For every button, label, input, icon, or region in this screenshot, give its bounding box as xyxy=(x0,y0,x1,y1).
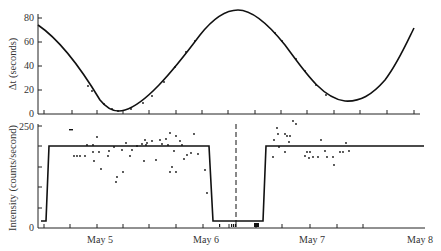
bottom-panel: 250 0 May 5 May 6 May 7 May 8 Intensity … xyxy=(7,120,433,245)
x-tick-label-may8: May 8 xyxy=(407,234,433,245)
x-tick-label-may6: May 6 xyxy=(193,234,219,245)
eclipse-model-line xyxy=(41,146,424,221)
top-y-tick-label: 80 xyxy=(24,12,34,23)
top-y-tick-label: 0 xyxy=(29,108,34,119)
top-y-tick-label: 40 xyxy=(24,60,34,71)
delay-data-points xyxy=(87,32,327,112)
bottom-y-axis-title: Intensity (counts/second) xyxy=(7,125,19,231)
top-y-ticks xyxy=(38,18,42,90)
bottom-y-tick-label: 250 xyxy=(19,121,34,132)
top-y-axis-title: Δt (seconds) xyxy=(7,37,19,90)
bottom-y-tick-label: 0 xyxy=(29,222,34,233)
x-tick-label-may5: May 5 xyxy=(87,234,113,245)
top-x-ticks xyxy=(44,110,414,114)
intensity-data-points xyxy=(69,120,350,227)
delay-curve xyxy=(38,10,414,111)
top-panel: 80 60 40 20 0 Δt (seconds) xyxy=(7,10,420,119)
top-y-tick-label: 20 xyxy=(24,84,34,95)
x-tick-label-may7: May 7 xyxy=(299,234,325,245)
bottom-x-ticks xyxy=(44,224,363,228)
bottom-y-ticks xyxy=(38,126,42,208)
chart-figure: 80 60 40 20 0 Δt (seconds) xyxy=(0,0,441,251)
top-y-tick-label: 60 xyxy=(24,36,34,47)
